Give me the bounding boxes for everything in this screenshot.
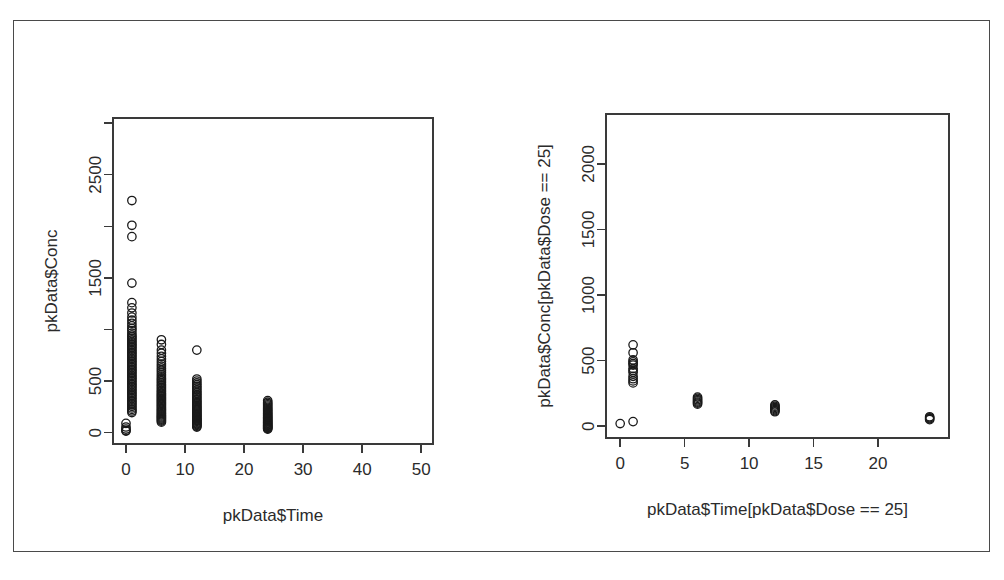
data-point	[193, 346, 201, 354]
data-point	[128, 232, 136, 240]
x-tick-label: 5	[680, 454, 689, 473]
y-tick-label: 500	[580, 346, 599, 374]
x-axis-title: pkData$Time	[223, 506, 323, 525]
x-tick-label: 30	[294, 460, 313, 479]
x-tick-label: 10	[740, 454, 759, 473]
scatter-panel-left: 01020304050050015002500pkData$TimepkData…	[14, 21, 502, 553]
data-point	[128, 221, 136, 229]
figure-root: 01020304050050015002500pkData$TimepkData…	[0, 0, 1004, 580]
y-tick-label: 2500	[87, 156, 106, 194]
y-tick-label: 1000	[580, 276, 599, 314]
y-axis-title: pkData$Conc	[42, 229, 61, 333]
x-axis-title: pkData$Time[pkData$Dose == 25]	[647, 500, 908, 519]
y-axis-title: pkData$Conc[pkData$Dose == 25]	[535, 144, 554, 408]
data-points-group	[616, 341, 934, 428]
x-tick-label: 0	[121, 460, 130, 479]
x-tick-label: 20	[235, 460, 254, 479]
y-tick-label: 1500	[87, 259, 106, 297]
x-tick-label: 20	[869, 454, 888, 473]
x-tick-label: 50	[412, 460, 431, 479]
x-tick-label: 15	[804, 454, 823, 473]
scatter-panel-right: 051015200500100015002000pkData$Time[pkDa…	[502, 21, 989, 553]
data-point	[128, 196, 136, 204]
y-tick-label: 0	[580, 421, 599, 430]
x-tick-label: 0	[615, 454, 624, 473]
data-point	[629, 417, 637, 425]
data-point	[128, 279, 136, 287]
data-points-group	[122, 196, 272, 435]
y-tick-label: 0	[87, 428, 106, 437]
x-tick-label: 10	[176, 460, 195, 479]
y-tick-label: 2000	[580, 145, 599, 183]
figure-outer-border: 01020304050050015002500pkData$TimepkData…	[13, 20, 990, 552]
scatter-plot-left-svg: 01020304050050015002500pkData$TimepkData…	[14, 21, 502, 553]
y-tick-label: 1500	[580, 211, 599, 249]
x-tick-label: 40	[353, 460, 372, 479]
data-point	[629, 341, 637, 349]
scatter-plot-right-svg: 051015200500100015002000pkData$Time[pkDa…	[502, 21, 989, 553]
data-point	[616, 419, 624, 427]
plot-box	[606, 114, 949, 438]
y-tick-label: 500	[87, 367, 106, 395]
